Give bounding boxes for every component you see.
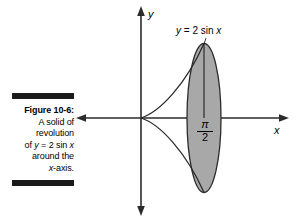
fraction-denominator: 2 (196, 132, 214, 144)
x-axis-label: x (274, 124, 280, 136)
curve-equation-rest: = 2 sin (181, 25, 216, 36)
x-axis-arrow-left (76, 114, 86, 122)
y-axis (137, 6, 145, 216)
x-bound-fraction-label: π 2 (196, 119, 214, 143)
fraction-numerator: π (196, 119, 214, 131)
y-axis-arrow-down (137, 206, 145, 216)
y-axis-label: y (148, 8, 154, 20)
plot-area: y x y = 2 sin x π 2 (0, 0, 299, 222)
figure-svg (0, 0, 299, 222)
x-axis-arrow-right (279, 114, 289, 122)
curve-equation-label: y = 2 sin x (176, 25, 221, 36)
curve-equation-x: x (216, 25, 221, 36)
y-axis-arrow-up (137, 6, 145, 16)
x-axis (76, 114, 289, 122)
figure-container: Figure 10-6: A solid of revolution of y … (0, 0, 299, 222)
